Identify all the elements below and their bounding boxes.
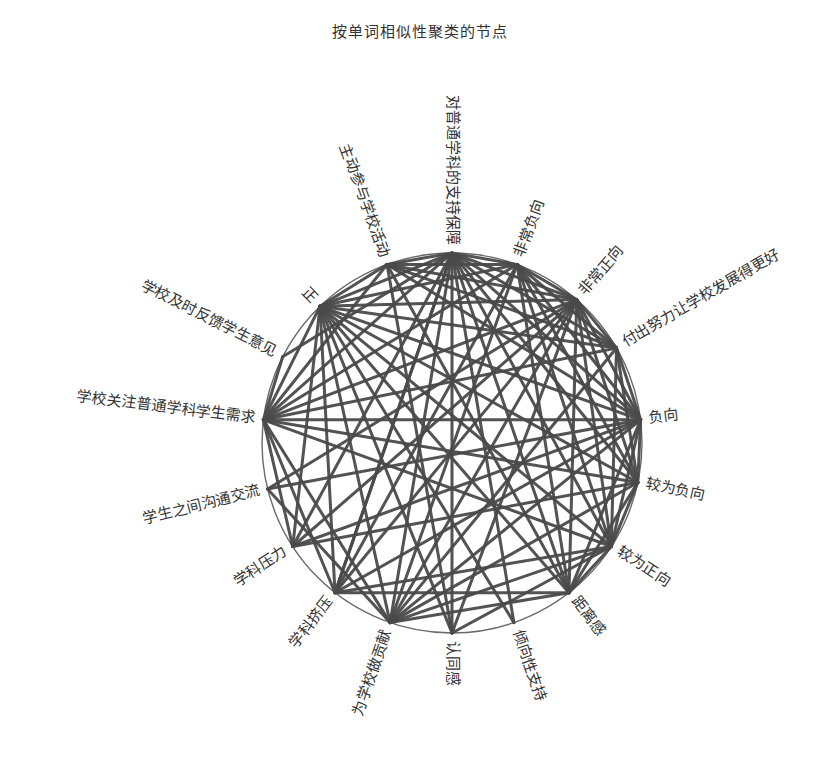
node-label: 正 <box>298 283 321 306</box>
node-label: 为学校做贡献 <box>349 627 395 718</box>
edge-layer <box>263 253 640 633</box>
node-label: 学校及时反馈学生意见 <box>138 276 280 360</box>
node-label: 距离感 <box>568 593 610 640</box>
node-label: 较为负向 <box>644 474 706 504</box>
node-label: 学校关注普通学科学生需求 <box>76 387 257 427</box>
node-label: 倾向性支持 <box>509 627 550 704</box>
node-label: 非常负向 <box>510 197 547 260</box>
node-label: 非常正向 <box>574 242 627 299</box>
node-label: 负向 <box>647 405 679 427</box>
node-label: 较为正向 <box>614 542 674 590</box>
node-label: 学生之间沟通交流 <box>141 481 262 527</box>
node-label: 学科压力 <box>230 542 290 590</box>
node-label: 主动参与学校活动 <box>336 141 394 260</box>
node-label: 学科挤压 <box>285 593 336 651</box>
node-label: 付出努力让学校发展得更好 <box>619 245 784 351</box>
network-diagram: 对普通学科的支持保障非常负向非常正向付出努力让学校发展得更好负向较为负向较为正向… <box>0 0 840 783</box>
edge-line <box>335 300 577 593</box>
node-label: 认同感 <box>444 641 462 686</box>
node-label: 对普通学科的支持保障 <box>444 95 462 245</box>
label-layer: 对普通学科的支持保障非常负向非常正向付出努力让学校发展得更好负向较为负向较为正向… <box>76 95 784 718</box>
